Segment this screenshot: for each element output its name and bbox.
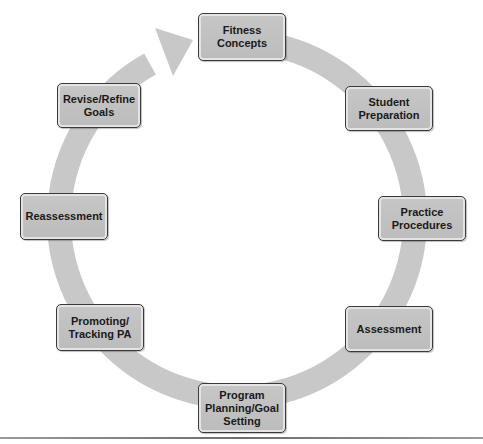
node-promoting-tracking: Promoting/ Tracking PA: [56, 304, 144, 351]
node-assessment: Assessment: [345, 306, 433, 352]
node-label: Fitness Concepts: [217, 24, 267, 50]
bottom-rule: [0, 437, 483, 439]
node-label: Reassessment: [25, 210, 102, 223]
node-fitness-concepts: Fitness Concepts: [198, 13, 286, 61]
node-label: Assessment: [357, 323, 422, 336]
node-reassessment: Reassessment: [20, 193, 108, 240]
arrowhead-icon: [155, 28, 193, 76]
node-revise-refine: Revise/Refine Goals: [57, 83, 141, 128]
node-practice-procedures: Practice Procedures: [378, 196, 466, 241]
node-program-planning: Program Planning/Goal Setting: [198, 383, 286, 433]
node-student-preparation: Student Preparation: [345, 86, 433, 131]
node-label: Promoting/ Tracking PA: [69, 315, 132, 341]
node-label: Program Planning/Goal Setting: [205, 389, 279, 428]
node-label: Revise/Refine Goals: [63, 93, 135, 119]
node-label: Practice Procedures: [392, 206, 453, 232]
node-label: Student Preparation: [358, 96, 419, 122]
